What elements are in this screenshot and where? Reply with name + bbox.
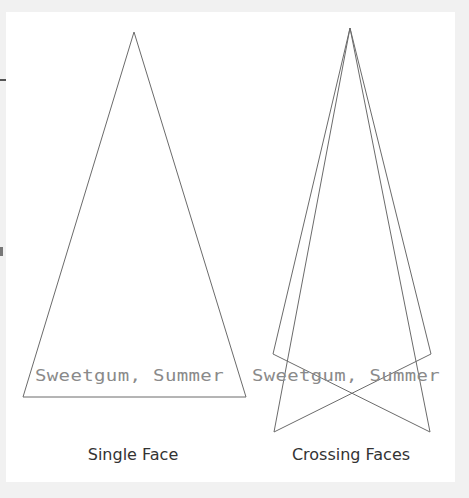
- crossing-faces-group: Sweetgum, Summer Crossing Faces: [252, 28, 440, 464]
- single-face-caption: Single Face: [88, 445, 178, 464]
- crossing-faces-texture-label: Sweetgum, Summer: [252, 366, 440, 385]
- single-face-group: Sweetgum, Summer Single Face: [23, 32, 246, 464]
- single-face-triangle: [23, 32, 246, 397]
- single-face-texture-label: Sweetgum, Summer: [35, 366, 224, 385]
- billboard-faces-diagram: Sweetgum, Summer Single Face Sweetgum, S…: [0, 0, 469, 498]
- crossing-faces-caption: Crossing Faces: [292, 445, 410, 464]
